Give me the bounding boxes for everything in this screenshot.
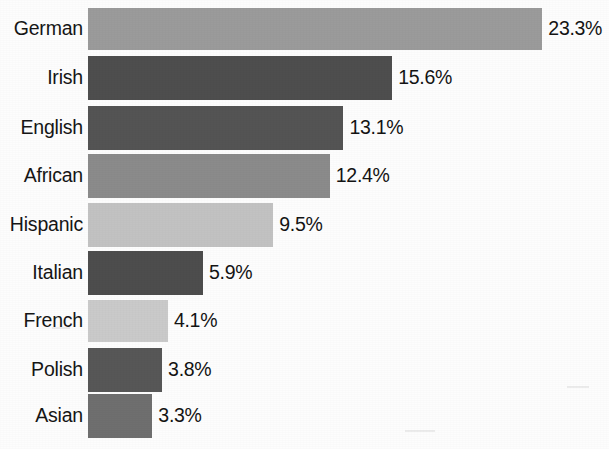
bar: [88, 8, 542, 50]
category-label: German: [0, 19, 88, 39]
bar-row: African12.4%: [0, 154, 609, 198]
bar-value-label: 23.3%: [542, 19, 602, 39]
bar: [88, 203, 273, 247]
bar-value-label: 3.3%: [152, 406, 201, 426]
bar-value-label: 9.5%: [273, 215, 322, 235]
bar-row: Polish3.8%: [0, 348, 609, 392]
bar-track: 4.1%: [88, 300, 609, 342]
bar-track: 3.8%: [88, 348, 609, 392]
bar-chart: German23.3%Irish15.6%English13.1%African…: [0, 0, 609, 449]
bar-row: French4.1%: [0, 300, 609, 342]
bar: [88, 300, 168, 342]
bar-row: Hispanic9.5%: [0, 203, 609, 247]
bar: [88, 106, 343, 150]
category-label: Hispanic: [0, 215, 88, 235]
category-label: Irish: [0, 68, 88, 88]
bar-value-label: 3.8%: [162, 360, 211, 380]
bar: [88, 394, 152, 438]
bar-row: German23.3%: [0, 8, 609, 50]
category-label: French: [0, 311, 88, 331]
bar: [88, 251, 203, 295]
category-label: Asian: [0, 406, 88, 426]
bar-value-label: 4.1%: [168, 311, 217, 331]
bar-row: English13.1%: [0, 106, 609, 150]
bar-row: Italian5.9%: [0, 251, 609, 295]
bar-row: Asian3.3%: [0, 394, 609, 438]
bar-value-label: 5.9%: [203, 263, 252, 283]
bar: [88, 56, 392, 100]
bar-value-label: 13.1%: [343, 118, 403, 138]
bar-value-label: 15.6%: [392, 68, 452, 88]
category-label: English: [0, 118, 88, 138]
category-label: Polish: [0, 360, 88, 380]
bar-track: 5.9%: [88, 251, 609, 295]
bar-track: 23.3%: [88, 8, 609, 50]
bar-value-label: 12.4%: [330, 166, 390, 186]
category-label: African: [0, 166, 88, 186]
bar: [88, 154, 330, 198]
bar-track: 9.5%: [88, 203, 609, 247]
bar-row: Irish15.6%: [0, 56, 609, 100]
bar-track: 12.4%: [88, 154, 609, 198]
bar-track: 3.3%: [88, 394, 609, 438]
bar-track: 15.6%: [88, 56, 609, 100]
category-label: Italian: [0, 263, 88, 283]
bar-track: 13.1%: [88, 106, 609, 150]
bar: [88, 348, 162, 392]
